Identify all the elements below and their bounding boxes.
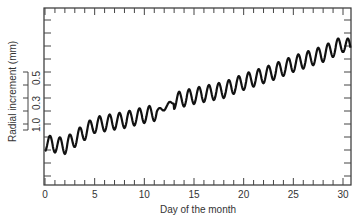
x-tick-label: 25 xyxy=(288,189,300,200)
radial-increment-line xyxy=(45,39,351,155)
x-tick-label: 10 xyxy=(139,189,151,200)
x-tick-label: 5 xyxy=(92,189,98,200)
scale-bar: 1.00.30.5 xyxy=(23,71,42,132)
y-axis-label: Radial increment (mm) xyxy=(7,41,18,142)
scale-bar-label: 0.3 xyxy=(31,96,42,110)
x-tick-label: 20 xyxy=(238,189,250,200)
scale-bar-label: 0.5 xyxy=(31,71,42,85)
x-tick-label: 15 xyxy=(188,189,200,200)
y-axis-ticks xyxy=(44,20,351,176)
plot-frame xyxy=(44,8,351,185)
x-axis-ticks xyxy=(45,8,343,185)
x-axis-tick-labels: 051015202530 xyxy=(42,189,349,200)
x-tick-label: 0 xyxy=(42,189,48,200)
scale-bar-label: 1.0 xyxy=(31,118,42,132)
radial-increment-chart: 051015202530 Day of the month Radial inc… xyxy=(0,0,357,219)
x-tick-label: 30 xyxy=(337,189,349,200)
x-axis-label: Day of the month xyxy=(160,204,236,215)
